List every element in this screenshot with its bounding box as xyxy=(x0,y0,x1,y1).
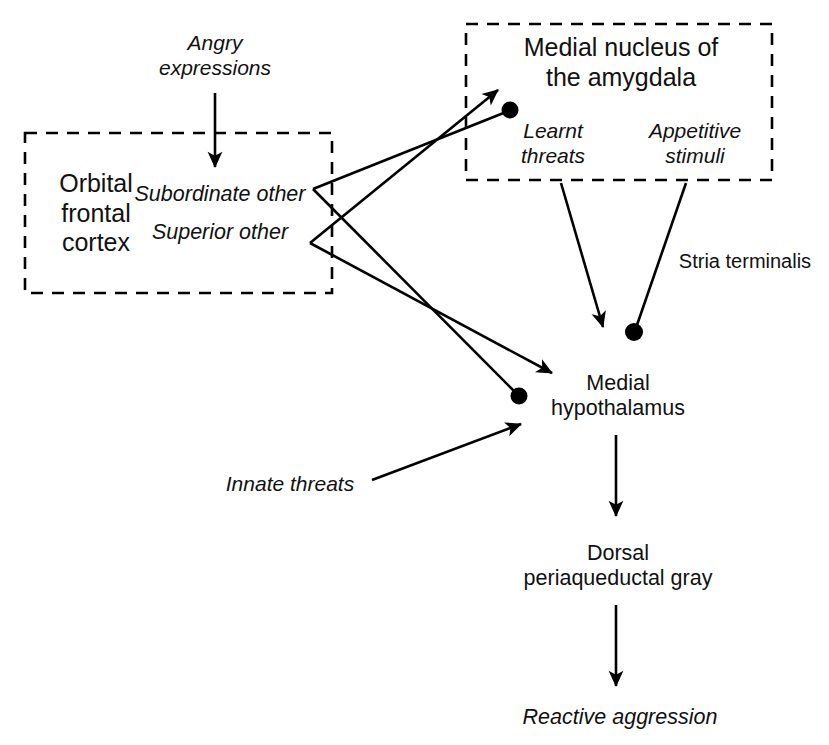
node-innate-threats: Innate threats xyxy=(226,472,354,497)
node-appetitive-stimuli: Appetitive stimuli xyxy=(649,119,741,169)
connection-superior-to-amygdala xyxy=(310,90,498,243)
node-medial-hypothalamus: Medial hypothalamus xyxy=(551,371,685,422)
diagram-connections-layer xyxy=(0,0,829,745)
terminal-dot-subordinate-to-amygdala xyxy=(502,102,519,119)
node-superior-other: Superior other xyxy=(152,220,288,245)
diagram-canvas: Orbital frontal cortex Medial nucleus of… xyxy=(0,0,829,745)
terminal-dot-subordinate-to-hypothalamus xyxy=(511,388,528,405)
connection-subordinate-to-amygdala xyxy=(313,112,506,189)
node-dorsal-periaqueductal-gray: Dorsal periaqueductal gray xyxy=(524,541,713,592)
connection-subordinate-to-hypothalamus xyxy=(313,189,514,391)
node-angry-expressions: Angry expressions xyxy=(159,31,271,81)
connection-innate-threats-to-hypothalamus xyxy=(372,424,521,480)
terminal-dot-appetitive-to-hypothalamus xyxy=(625,323,643,341)
node-stria-terminalis: Stria terminalis xyxy=(679,250,811,274)
node-subordinate-other: Subordinate other xyxy=(135,182,306,207)
medial-nucleus-amygdala-label: Medial nucleus of the amygdala xyxy=(524,33,719,92)
connection-learnt-threats-to-hypothalamus xyxy=(561,183,603,327)
node-reactive-aggression: Reactive aggression xyxy=(523,705,718,730)
connection-superior-to-hypothalamus xyxy=(310,243,552,373)
orbital-frontal-cortex-label: Orbital frontal cortex xyxy=(59,169,133,258)
node-learnt-threats: Learnt threats xyxy=(521,119,585,169)
